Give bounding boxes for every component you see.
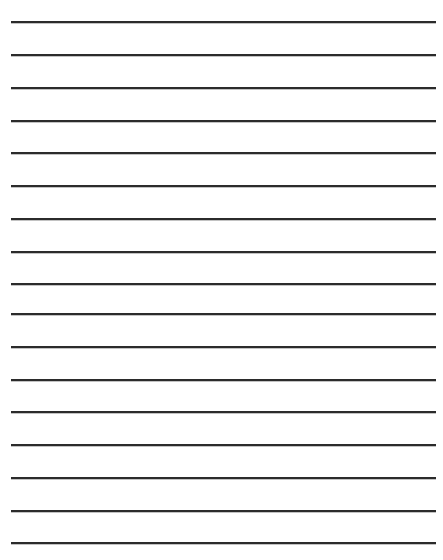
rule-line (11, 120, 436, 122)
rule-line (11, 87, 436, 89)
rule-line (11, 379, 436, 381)
rule-line (11, 346, 436, 348)
rule-line (11, 152, 436, 154)
rule-line (11, 510, 436, 512)
rule-line (11, 185, 436, 187)
rule-line (11, 283, 436, 285)
lined-paper-sheet (0, 0, 443, 560)
rule-line (11, 21, 436, 23)
rule-line (11, 477, 436, 479)
rule-line (11, 54, 436, 56)
rule-line (11, 542, 436, 544)
rule-line (11, 444, 436, 446)
rule-line (11, 251, 436, 253)
rule-line (11, 313, 436, 315)
rule-line (11, 218, 436, 220)
rule-line (11, 411, 436, 413)
